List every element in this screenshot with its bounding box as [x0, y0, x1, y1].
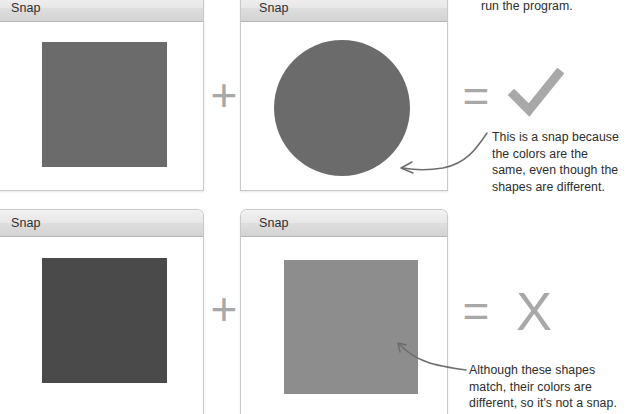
gray-square-shape: [42, 42, 167, 167]
bottom-callout-text: Although these shapes match, their color…: [469, 362, 625, 412]
equals-operator-top: =: [461, 73, 491, 119]
partial-instruction-text: run the program.: [481, 0, 627, 15]
snap-canvas[interactable]: [0, 22, 203, 190]
window-titlebar[interactable]: Snap: [241, 210, 447, 237]
window-title: Snap: [0, 2, 41, 15]
plus-operator-top: +: [210, 72, 238, 118]
snap-canvas[interactable]: [0, 237, 203, 414]
snap-canvas[interactable]: [241, 22, 447, 190]
light-gray-square-shape: [284, 260, 418, 394]
snap-window-top-left[interactable]: Snap: [0, 0, 204, 191]
cross-result-icon: X: [509, 284, 559, 338]
checkmark-result-icon: [508, 68, 564, 120]
dark-gray-square-shape: [42, 258, 167, 383]
gray-circle-shape: [274, 40, 410, 176]
snap-canvas[interactable]: [241, 237, 447, 414]
snap-window-bottom-left[interactable]: Snap: [0, 209, 204, 414]
plus-operator-bottom: +: [210, 286, 238, 332]
window-title: Snap: [0, 217, 41, 230]
window-titlebar[interactable]: Snap: [0, 210, 203, 237]
equals-operator-bottom: =: [461, 288, 491, 334]
top-callout-text: This is a snap because the colors are th…: [492, 129, 624, 195]
snap-window-top-right[interactable]: Snap: [240, 0, 448, 191]
window-title: Snap: [241, 2, 289, 15]
window-title: Snap: [241, 217, 289, 230]
window-titlebar[interactable]: Snap: [241, 0, 447, 22]
snap-window-bottom-right[interactable]: Snap: [240, 209, 448, 414]
window-titlebar[interactable]: Snap: [0, 0, 203, 22]
